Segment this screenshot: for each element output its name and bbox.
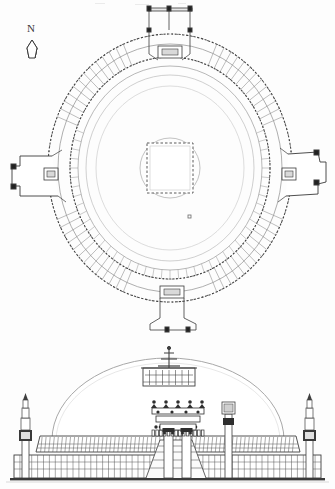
stupa-elevation <box>0 0 335 489</box>
drawing-sheet: N <box>0 0 335 489</box>
elevation-ground-line <box>10 478 325 480</box>
elevation-harmika <box>141 368 197 386</box>
